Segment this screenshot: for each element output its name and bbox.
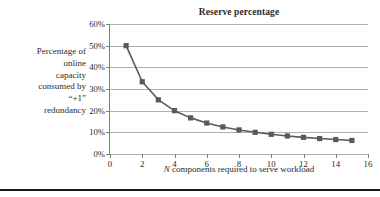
data-point-marker [269, 132, 274, 137]
x-axis-tick [110, 154, 111, 158]
data-point-marker [333, 137, 338, 142]
y-axis-title-line: “+1” [4, 93, 86, 105]
x-axis-tick [239, 154, 240, 158]
y-axis-title-line: Percentage of [4, 46, 86, 58]
data-point-marker [301, 135, 306, 140]
x-axis-tick [304, 154, 305, 158]
y-axis-tick-label: 30% [89, 85, 105, 94]
y-axis-title-line: capacity [4, 70, 86, 82]
x-axis-tick [175, 154, 176, 158]
data-point-marker [124, 43, 129, 48]
data-point-marker [349, 138, 354, 143]
y-axis-tick-label: 60% [89, 20, 105, 29]
data-point-marker [140, 79, 145, 84]
plot-area: 0%10%20%30%40%50%60% 0246810121416 [110, 24, 368, 154]
x-axis-tick [207, 154, 208, 158]
data-point-marker [236, 127, 241, 132]
y-axis-title: Percentage of online capacity consumed b… [4, 46, 86, 117]
bottom-divider [0, 189, 380, 191]
y-axis-title-line: consumed by [4, 81, 86, 93]
x-axis-tick [142, 154, 143, 158]
y-axis-tick-label: 50% [89, 41, 105, 50]
y-axis-tick-label: 40% [89, 63, 105, 72]
data-point-marker [285, 133, 290, 138]
x-axis-title-rest: components required to serve workload [170, 164, 315, 174]
data-point-marker [220, 124, 225, 129]
data-point-marker [317, 136, 322, 141]
data-point-marker [156, 97, 161, 102]
x-axis-title: N components required to serve workload [110, 164, 368, 175]
x-axis-tick [368, 154, 369, 158]
chart-figure: Reserve percentage Percentage of online … [0, 0, 380, 197]
data-point-marker [253, 130, 258, 135]
data-point-marker [172, 108, 177, 113]
y-axis-tick-label: 0% [94, 150, 105, 159]
x-axis-tick [271, 154, 272, 158]
chart-title: Reserve percentage [110, 7, 368, 18]
data-point-marker [188, 115, 193, 120]
data-point-marker [204, 120, 209, 125]
x-axis-tick [336, 154, 337, 158]
series-line-reserve-percentage [110, 24, 368, 154]
series-line [126, 46, 352, 141]
y-axis-title-line: online [4, 58, 86, 70]
y-axis-title-line: redundancy [4, 105, 86, 117]
y-axis-tick-label: 20% [89, 106, 105, 115]
y-axis-tick-label: 10% [89, 128, 105, 137]
